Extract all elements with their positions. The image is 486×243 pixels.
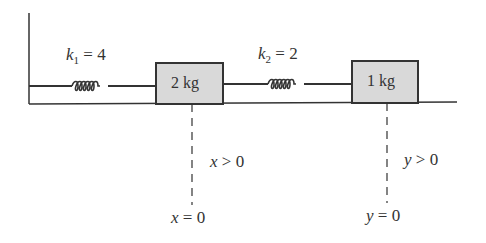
diagram-graphics — [0, 0, 486, 243]
x-zero-label: x = 0 — [171, 209, 205, 226]
mass-1kg-label: 1 kg — [367, 73, 395, 89]
mass-2kg-label: 2 kg — [171, 75, 199, 91]
spring-k1 — [29, 82, 156, 91]
y-positive-label: y > 0 — [404, 151, 438, 168]
x-positive-label: x > 0 — [210, 153, 244, 170]
spring-k2-label: k2 = 2 — [258, 45, 298, 65]
spring-k2 — [223, 80, 352, 89]
spring-k1-label: k1 = 4 — [66, 46, 106, 66]
spring-mass-diagram: k1 = 4 k2 = 2 2 kg 1 kg x > 0 x = 0 y > … — [0, 0, 486, 243]
y-zero-label: y = 0 — [366, 207, 400, 224]
